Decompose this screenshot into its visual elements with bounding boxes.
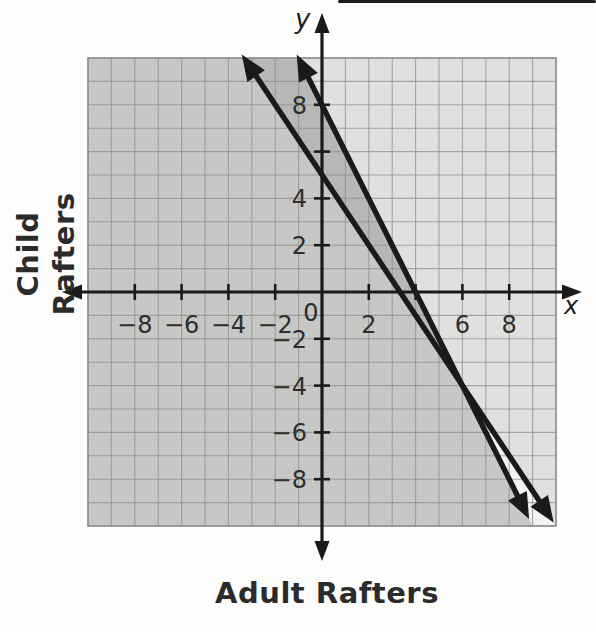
x-tick-label: −6 (164, 311, 199, 339)
x-tick-label: 2 (361, 311, 376, 339)
x-tick-label: 8 (502, 311, 517, 339)
y-tick-label: −6 (272, 419, 307, 447)
y-axis-top-arrow (315, 13, 330, 33)
y-tick-label: 2 (292, 232, 307, 260)
y-tick-label: 4 (292, 185, 307, 213)
graph-figure: −8−6−4−2268842−2−4−6−80 y x Child Rafter… (0, 0, 596, 632)
x-tick-label: −8 (117, 311, 152, 339)
x-tick-label: −4 (211, 311, 246, 339)
y-axis-bottom-arrow (315, 541, 330, 561)
x-axis-title: Adult Rafters (127, 576, 527, 610)
y-tick-label: 8 (292, 92, 307, 120)
x-axis-letter: x (564, 292, 578, 320)
y-tick-label: −8 (272, 466, 307, 494)
y-axis-letter: y (295, 4, 310, 34)
origin-label: 0 (303, 299, 318, 327)
x-tick-label: 6 (455, 311, 470, 339)
y-tick-label: −4 (272, 373, 307, 401)
y-axis-title: Child Rafters (10, 159, 46, 349)
coordinate-plane: −8−6−4−2268842−2−4−6−80 (0, 0, 596, 632)
y-tick-label: −2 (272, 326, 307, 354)
